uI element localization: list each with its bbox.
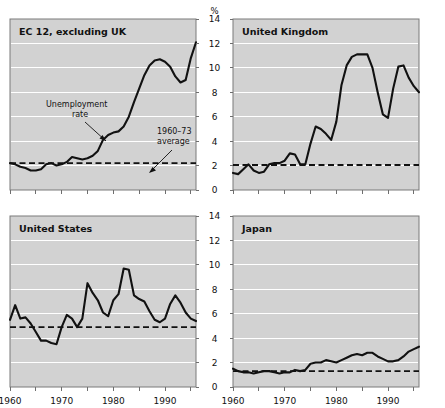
panel-title-bottom-right: Japan xyxy=(241,223,272,234)
x-tick-label-1990: 1990 xyxy=(377,396,400,406)
y-tick-label-4: 4 xyxy=(212,137,218,147)
x-tick-label-1970: 1970 xyxy=(273,396,296,406)
x-tick-label-1960: 1960 xyxy=(222,396,245,406)
x-tick-label-1960: 1960 xyxy=(0,396,22,406)
panel-bottom-right: Japan1960197019801990 xyxy=(222,216,419,406)
y-tick-label-6: 6 xyxy=(212,309,218,319)
y-axis-shared-row-top: %02468101214 xyxy=(196,6,233,195)
y-tick-label-12: 12 xyxy=(209,39,220,49)
annotation-unemployment-rate-line2: rate xyxy=(72,110,88,119)
panel-title-bottom-left: United States xyxy=(19,223,93,234)
y-tick-label-14: 14 xyxy=(209,14,221,24)
y-tick-label-6: 6 xyxy=(212,112,218,122)
unemployment-rate-figure: EC 12, excluding UKUnited KingdomUnited … xyxy=(0,0,445,408)
panel-top-right: United Kingdom xyxy=(233,19,419,194)
y-tick-label-2: 2 xyxy=(212,161,218,171)
chart-canvas: EC 12, excluding UKUnited KingdomUnited … xyxy=(0,0,445,408)
y-tick-label-14: 14 xyxy=(209,211,221,221)
y-tick-label-8: 8 xyxy=(212,285,218,295)
x-tick-label-1980: 1980 xyxy=(325,396,348,406)
annotation-average-line1: 1960–73 xyxy=(157,127,192,136)
panel-title-top-left: EC 12, excluding UK xyxy=(19,26,127,37)
y-axis-shared-row-bottom: 02468101214 xyxy=(196,211,233,392)
y-tick-label-0: 0 xyxy=(212,185,218,195)
x-tick-label-1990: 1990 xyxy=(154,396,177,406)
y-tick-label-2: 2 xyxy=(212,358,218,368)
y-tick-label-12: 12 xyxy=(209,236,220,246)
y-tick-label-4: 4 xyxy=(212,334,218,344)
plot-area-background xyxy=(10,216,196,387)
panel-bottom-left: United States1960197019801990 xyxy=(0,216,196,406)
y-tick-label-0: 0 xyxy=(212,382,218,392)
x-tick-label-1970: 1970 xyxy=(50,396,73,406)
annotation-average-line2: average xyxy=(157,137,190,146)
y-tick-label-10: 10 xyxy=(209,63,221,73)
x-tick-label-1980: 1980 xyxy=(102,396,125,406)
y-tick-label-10: 10 xyxy=(209,260,221,270)
panel-title-top-right: United Kingdom xyxy=(242,26,328,37)
y-tick-label-8: 8 xyxy=(212,88,218,98)
annotation-unemployment-rate-line1: Unemployment xyxy=(46,100,108,109)
